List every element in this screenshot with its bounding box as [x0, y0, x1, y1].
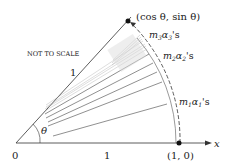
origin-label: 0 — [12, 150, 18, 161]
group-label-1: m1α1's — [179, 96, 210, 108]
x-axis-label: x — [214, 138, 220, 149]
segments — [45, 54, 167, 136]
point-one-zero — [177, 141, 182, 146]
point-right-label: (1, 0) — [167, 150, 194, 161]
group-label-2: m2α2's — [163, 50, 194, 62]
arc-arrow-icon — [130, 22, 136, 27]
point-cos-sin — [126, 19, 131, 24]
not-to-scale-note: NOT TO SCALE — [27, 50, 80, 58]
radius-label-lower: 1 — [104, 150, 110, 161]
unit-circle-sector-diagram: (cos θ, sin θ) (1, 0) 0 x 1 1 θ NOT TO S… — [0, 0, 226, 168]
angle-arc — [33, 124, 40, 143]
point-top-label: (cos θ, sin θ) — [136, 11, 200, 22]
dashed-arc — [132, 24, 180, 143]
group-label-3: m3α3's — [149, 29, 180, 41]
radius-label-upper: 1 — [70, 67, 76, 78]
angle-label: θ — [41, 125, 47, 136]
x-axis-arrow-icon — [205, 141, 212, 146]
